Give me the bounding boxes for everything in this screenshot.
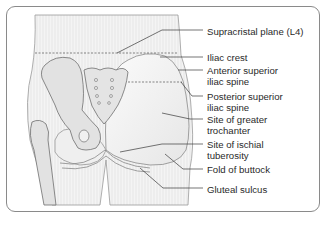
label-anterior-superior-iliac-spine: Anterior superior iliac spine [207, 65, 278, 87]
label-fold-of-buttock: Fold of buttock [207, 164, 270, 175]
label-gluteal-sulcus: Gluteal sulcus [207, 184, 267, 195]
label-site-of-greater-trochanter: Site of greater trochanter [207, 114, 267, 136]
obturator-foramen [79, 130, 89, 142]
label-supracristal-plane: Supracristal plane (L4) [207, 26, 304, 37]
label-site-of-ischial-tuberosity: Site of ischial tuberosity [207, 139, 264, 161]
label-iliac-crest: Iliac crest [207, 52, 248, 63]
label-posterior-superior-iliac-spine: Posterior superior iliac spine [207, 91, 283, 113]
